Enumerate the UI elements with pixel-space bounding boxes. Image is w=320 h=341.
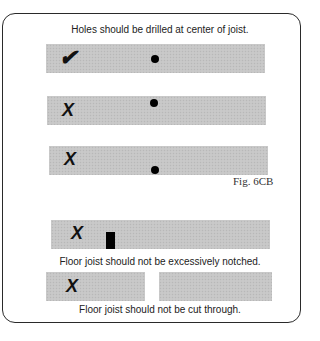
check-icon: ✔ (59, 47, 77, 69)
x-mark-icon: X (71, 224, 83, 242)
joist-cut-right-piece (159, 272, 272, 301)
caption-notched: Floor joist should not be excessively no… (0, 256, 320, 268)
figure-label: Fig. 6CB (233, 175, 273, 187)
hole-center (151, 55, 159, 63)
hole-bottom (151, 166, 159, 174)
notch (106, 232, 115, 249)
hole-top (150, 99, 158, 107)
diagram-title: Holes should be drilled at center of joi… (0, 24, 320, 36)
x-mark-icon: X (62, 101, 74, 119)
x-mark-icon: X (64, 150, 76, 168)
caption-cut: Floor joist should not be cut through. (0, 304, 320, 316)
joist-notched (51, 220, 270, 249)
joist-cut-left-piece (46, 272, 145, 301)
x-mark-icon: X (66, 277, 78, 295)
